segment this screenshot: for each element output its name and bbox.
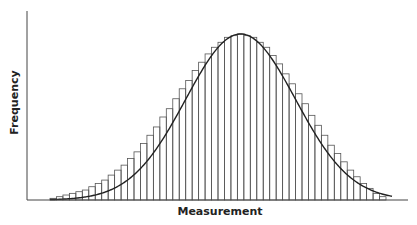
histogram-bar bbox=[315, 125, 321, 200]
histogram-bar bbox=[160, 117, 166, 200]
histogram-bar bbox=[231, 36, 237, 200]
histogram-bar bbox=[102, 180, 108, 200]
histogram-bar bbox=[283, 74, 289, 200]
histogram-bar bbox=[257, 42, 263, 200]
x-axis-label: Measurement bbox=[150, 205, 290, 218]
histogram-bar bbox=[205, 54, 211, 200]
histogram-bar bbox=[237, 34, 243, 200]
histogram-bar bbox=[82, 190, 88, 200]
histogram-bar bbox=[224, 37, 230, 200]
y-axis-label: Frequency bbox=[8, 63, 21, 143]
histogram-bar bbox=[334, 154, 340, 200]
histogram-bars bbox=[50, 34, 386, 200]
histogram-bar bbox=[134, 152, 140, 200]
histogram-bar bbox=[140, 144, 146, 200]
histogram-bar bbox=[347, 170, 353, 200]
histogram-bar bbox=[263, 47, 269, 200]
histogram-bar bbox=[250, 37, 256, 200]
histogram-bar bbox=[108, 175, 114, 200]
histogram-bar bbox=[289, 84, 295, 200]
histogram-bar bbox=[212, 47, 218, 200]
histogram-bar bbox=[218, 42, 224, 200]
histogram-bar bbox=[95, 183, 101, 200]
histogram-bar bbox=[244, 36, 250, 200]
histogram-bar bbox=[270, 56, 276, 200]
histogram-bar bbox=[341, 162, 347, 200]
histogram-bar bbox=[89, 187, 95, 200]
histogram-bar bbox=[192, 71, 198, 200]
histogram-chart bbox=[0, 0, 417, 225]
histogram-bar bbox=[276, 64, 282, 200]
histogram-bar bbox=[373, 193, 379, 200]
histogram-bar bbox=[147, 135, 153, 200]
histogram-bar bbox=[166, 109, 172, 200]
histogram-bar bbox=[153, 127, 159, 200]
histogram-bar bbox=[199, 62, 205, 200]
